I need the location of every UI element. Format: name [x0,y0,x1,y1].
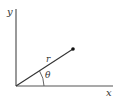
x-axis-label: x [106,87,112,98]
angle-arc [40,71,45,86]
y-axis-label: y [6,6,13,17]
point [71,47,75,51]
polar-diagram: y x r θ [0,0,123,104]
angle-label: θ [45,70,51,80]
radius-label: r [46,54,51,64]
radius-line [16,49,73,86]
